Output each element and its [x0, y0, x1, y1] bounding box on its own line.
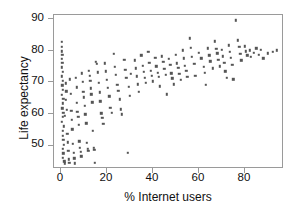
data-point	[164, 74, 166, 76]
data-point	[157, 76, 159, 78]
data-point	[249, 56, 251, 58]
data-point	[81, 72, 83, 74]
data-point	[240, 59, 242, 61]
data-point	[71, 119, 73, 121]
data-point	[144, 76, 146, 78]
x-tick-label: 40	[132, 172, 172, 184]
x-tick-label: 80	[224, 172, 264, 184]
data-point	[253, 51, 255, 53]
data-point	[98, 91, 100, 93]
data-point	[142, 71, 144, 73]
x-tick-label: 20	[86, 172, 126, 184]
data-point	[255, 47, 257, 49]
data-point	[205, 84, 207, 86]
data-point	[61, 107, 63, 109]
data-point	[61, 54, 63, 56]
data-point	[140, 54, 142, 56]
x-axis-title: % Internet users	[53, 190, 283, 204]
data-point	[102, 122, 104, 124]
data-point	[183, 57, 185, 59]
data-point	[69, 93, 71, 95]
data-point	[124, 69, 126, 71]
data-point	[106, 79, 108, 81]
data-point	[217, 59, 219, 61]
data-point	[71, 128, 73, 130]
data-point	[267, 52, 269, 54]
data-point	[83, 104, 85, 106]
data-point	[126, 152, 128, 154]
data-point	[149, 69, 151, 71]
data-point	[203, 71, 205, 73]
data-point	[62, 139, 64, 141]
data-point	[78, 140, 80, 142]
data-point	[244, 45, 246, 47]
data-point	[108, 95, 110, 97]
data-point	[89, 79, 91, 81]
data-point	[61, 102, 63, 104]
data-point	[186, 76, 188, 78]
data-point	[93, 149, 95, 151]
data-point	[91, 101, 93, 103]
data-point	[154, 56, 156, 58]
data-point	[179, 79, 181, 81]
data-point	[182, 49, 184, 51]
data-point	[77, 116, 79, 118]
data-point	[246, 54, 248, 56]
data-point	[61, 134, 63, 136]
data-point	[159, 85, 161, 87]
data-point	[96, 63, 98, 65]
data-point	[62, 148, 64, 150]
data-point	[60, 41, 62, 43]
data-point	[61, 50, 63, 52]
data-point	[61, 84, 63, 86]
data-point	[61, 46, 63, 48]
data-point	[221, 49, 223, 51]
data-point	[72, 152, 74, 154]
data-point	[62, 112, 64, 114]
data-point	[165, 93, 167, 95]
data-point	[175, 54, 177, 56]
data-point	[209, 60, 211, 62]
data-point	[83, 96, 85, 98]
data-point	[184, 64, 186, 66]
data-point	[194, 74, 196, 76]
data-point	[239, 53, 241, 55]
data-point	[123, 59, 125, 61]
scatter-chart: 90 80 70 60 50 0 20 40 60 80 % Internet …	[0, 0, 292, 212]
data-point	[105, 70, 107, 72]
data-point	[193, 63, 195, 65]
data-point	[78, 123, 80, 125]
data-point	[109, 107, 111, 109]
data-point	[185, 69, 187, 71]
data-point	[118, 98, 120, 100]
data-point	[86, 142, 88, 144]
data-point	[61, 57, 63, 59]
data-point	[262, 57, 264, 59]
data-point	[68, 158, 70, 160]
data-point	[271, 51, 273, 53]
data-point	[73, 162, 75, 164]
data-point	[103, 62, 105, 64]
data-point	[79, 151, 81, 153]
data-point	[101, 117, 103, 119]
data-point	[257, 54, 259, 56]
data-point	[67, 150, 69, 152]
data-point	[88, 74, 90, 76]
data-point	[214, 40, 216, 42]
data-point	[216, 52, 218, 54]
data-point	[151, 74, 153, 76]
data-point	[245, 50, 247, 52]
data-point	[74, 76, 76, 78]
data-point	[130, 73, 132, 75]
data-point	[232, 78, 234, 80]
data-point	[66, 132, 68, 134]
data-point	[176, 62, 178, 64]
plot-area	[53, 14, 283, 168]
data-point	[178, 73, 180, 75]
data-point	[61, 71, 63, 73]
data-point	[148, 61, 150, 63]
data-point	[65, 82, 67, 84]
data-points-layer	[54, 15, 282, 167]
data-point	[128, 86, 130, 88]
data-point	[191, 56, 193, 58]
